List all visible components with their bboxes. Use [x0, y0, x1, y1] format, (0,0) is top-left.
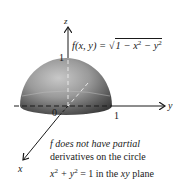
z-axis-label: z [63, 16, 68, 26]
caption-xy: xy [121, 168, 130, 179]
caption-plus-y: + y [58, 168, 74, 179]
caption-line-3: x2 + y2 = 1 in the xy plane [50, 165, 154, 179]
origin-label: 0 [52, 107, 57, 118]
figure-caption: f does not have partial derivatives on t… [50, 138, 154, 179]
x-axis-label: x [17, 163, 23, 174]
caption-line-1-text: f does not have partial [50, 138, 140, 149]
radicand-prefix: 1 − x [116, 40, 138, 51]
radicand-mid: − y [141, 40, 158, 51]
caption-end: plane [130, 168, 154, 179]
z-tick-label: 1 [59, 52, 64, 63]
exponent: 2 [158, 39, 162, 47]
caption-line-2: derivatives on the circle [50, 151, 154, 164]
radical-sign: √ [109, 40, 115, 51]
function-label: f(x, y) = √1 − x2 − y2 [72, 40, 162, 52]
y-axis-label: y [167, 100, 173, 111]
caption-equals: = 1 in the [78, 168, 121, 179]
radicand: 1 − x2 − y2 [115, 38, 162, 51]
function-lhs: f(x, y) = [72, 40, 109, 51]
caption-line-1: f does not have partial [50, 138, 154, 151]
y-tick-label: 1 [114, 110, 119, 121]
